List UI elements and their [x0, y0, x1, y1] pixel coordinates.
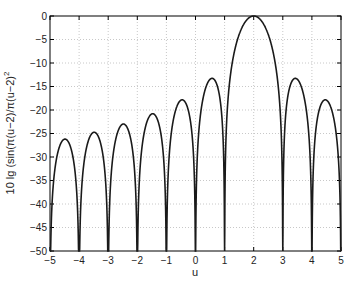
x-tick-label: 3 [280, 255, 286, 266]
y-tick-label: 0 [41, 11, 47, 22]
x-tick-label: 1 [222, 255, 228, 266]
x-tick-label: 4 [309, 255, 315, 266]
x-axis-label: u [192, 266, 198, 278]
y-tick-label: −35 [30, 175, 47, 186]
x-tick-label: 2 [251, 255, 257, 266]
x-tick-label: 5 [338, 255, 344, 266]
y-tick-label: −15 [30, 81, 47, 92]
sinc-squared-chart: −5−4−3−2−10123450−5−10−15−20−25−30−35−40… [0, 0, 364, 286]
x-tick-label: −4 [73, 255, 85, 266]
x-tick-label: −2 [132, 255, 144, 266]
y-tick-label: −25 [30, 128, 47, 139]
y-tick-label: −50 [30, 246, 47, 257]
y-axis-label: 10 lg (sin(π(u−2)/π(u−2)2 [2, 71, 16, 195]
y-tick-label: −40 [30, 199, 47, 210]
x-tick-label: 0 [193, 255, 199, 266]
y-tick-label: −20 [30, 105, 47, 116]
y-tick-label: −5 [36, 34, 48, 45]
x-tick-label: −1 [161, 255, 173, 266]
x-tick-label: −5 [44, 255, 56, 266]
y-tick-label: −10 [30, 58, 47, 69]
x-tick-label: −3 [102, 255, 114, 266]
y-tick-label: −45 [30, 222, 47, 233]
y-tick-label: −30 [30, 152, 47, 163]
